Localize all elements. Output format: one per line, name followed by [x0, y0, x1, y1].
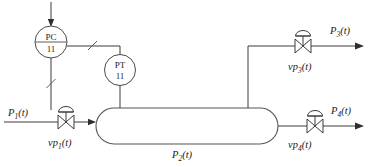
svg-text:P3(t): P3(t) [329, 25, 351, 39]
vp4-label-paren: (t) [302, 139, 312, 151]
pressure-vessel [96, 108, 278, 144]
inlet-label-paren: (t) [18, 107, 28, 119]
pressure-transmitter-bubble[interactable]: PT 11 [105, 55, 136, 86]
vessel-label-paren: (t) [182, 149, 192, 161]
svg-text:P4(t): P4(t) [330, 105, 352, 119]
transmitter-function-letters: PT [115, 60, 126, 70]
pressure-controller-bubble[interactable]: PC 11 [35, 26, 67, 58]
inlet-control-valve[interactable] [58, 107, 74, 130]
lower-outlet-control-valve[interactable] [307, 111, 323, 133]
controller-output-signal-line [47, 58, 56, 110]
controller-function-letters: PC [45, 32, 56, 42]
inlet-valve-label: vp1(t) [48, 137, 72, 151]
upper-outlet-riser [248, 46, 295, 108]
vp1-label-base: vp [48, 137, 58, 148]
svg-text:P1(t): P1(t) [7, 107, 29, 121]
transmitter-measurement-signal-line [67, 41, 120, 55]
setpoint-signal-line [48, 2, 54, 27]
vp3-label-paren: (t) [302, 61, 312, 73]
vp4-label-base: vp [288, 139, 298, 150]
svg-text:vp3(t): vp3(t) [288, 61, 312, 75]
lower-outlet-stream-label: P4(t) [330, 105, 352, 119]
lower-outlet-pipe-right [323, 123, 364, 130]
inlet-stream-label: P1(t) [7, 107, 29, 121]
upper-outlet-stream-label: P3(t) [329, 25, 351, 39]
transmitter-tag-number: 11 [116, 71, 125, 81]
svg-text:vp4(t): vp4(t) [288, 139, 312, 153]
svg-text:P2(t): P2(t) [171, 149, 193, 163]
vp3-label-base: vp [288, 61, 298, 72]
p3-label-paren: (t) [340, 25, 350, 37]
pid-canvas: PC 11 PT 11 [0, 0, 368, 167]
p4-label-paren: (t) [341, 105, 351, 117]
upper-outlet-control-valve[interactable] [295, 31, 311, 53]
upper-outlet-pipe [311, 43, 364, 50]
lower-outlet-valve-label: vp4(t) [288, 139, 312, 153]
svg-text:vp1(t): vp1(t) [48, 137, 72, 151]
vp1-label-paren: (t) [62, 137, 72, 149]
upper-outlet-valve-label: vp3(t) [288, 61, 312, 75]
pid-diagram: PC 11 PT 11 [0, 0, 368, 167]
vessel-label: P2(t) [171, 149, 193, 163]
controller-tag-number: 11 [47, 44, 56, 54]
